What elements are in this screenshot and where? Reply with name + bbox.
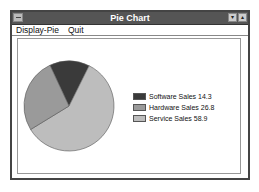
- menu-display-pie[interactable]: Display-Pie: [16, 25, 59, 35]
- maximize-button[interactable]: ▴: [238, 13, 247, 22]
- window-title: Pie Chart: [12, 12, 248, 24]
- legend-swatch: [133, 93, 146, 100]
- legend-swatch: [133, 115, 146, 122]
- legend-swatch: [133, 104, 146, 111]
- pie-chart-window: Pie Chart ▾ ▴ Display-Pie Quit Software …: [10, 10, 250, 180]
- menu-quit[interactable]: Quit: [68, 25, 84, 35]
- menu-bar: Display-Pie Quit: [12, 25, 248, 36]
- title-bar[interactable]: Pie Chart ▾ ▴: [12, 12, 248, 25]
- minimize-button[interactable]: ▾: [228, 13, 237, 22]
- chart-area: Software Sales 14.3 Hardware Sales 26.8 …: [17, 38, 241, 174]
